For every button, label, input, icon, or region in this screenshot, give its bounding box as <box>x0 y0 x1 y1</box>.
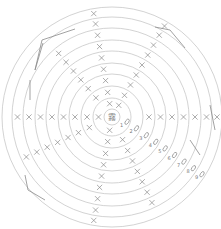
x-mark-icon <box>34 149 39 154</box>
x-mark-icon <box>107 128 112 133</box>
radial-diagram: 123456789 霧 <box>0 0 221 229</box>
bracket-line <box>210 105 215 130</box>
x-mark-icon <box>99 173 104 178</box>
numbered-labels: 123456789 <box>120 118 205 180</box>
x-mark-icon <box>38 114 43 119</box>
x-mark-icon <box>24 154 29 159</box>
x-mark-icon <box>169 114 174 119</box>
x-mark-icon <box>99 55 104 60</box>
x-mark-icon <box>134 72 139 77</box>
x-mark-icon <box>93 21 98 26</box>
x-mark-icon <box>128 82 133 87</box>
x-mark-icon <box>125 148 130 153</box>
x-mark-icon <box>76 130 81 135</box>
ring-number-label: 1 <box>120 122 123 128</box>
x-mark-icon <box>144 190 149 195</box>
x-mark-icon <box>181 114 186 119</box>
x-mark-icon <box>86 86 91 91</box>
x-mark-icon <box>26 114 31 119</box>
ring-number-label: 7 <box>177 162 180 168</box>
x-mark-icon <box>15 114 20 119</box>
center-glyph: 霧 <box>108 113 116 122</box>
x-mark-icon <box>72 114 77 119</box>
x-mark-icon <box>214 114 219 119</box>
ring-number-label: 9 <box>195 174 198 180</box>
oval-marker-icon <box>190 165 196 172</box>
x-mark-icon <box>71 68 76 73</box>
x-mark-icon <box>162 23 167 28</box>
x-mark-icon <box>93 95 98 100</box>
x-mark-icon <box>101 67 106 72</box>
oval-marker-icon <box>181 158 187 165</box>
x-mark-icon <box>157 33 162 38</box>
ring-number-label: 4 <box>149 142 152 148</box>
x-mark-icon <box>61 114 66 119</box>
x-mark-icon <box>103 78 108 83</box>
x-mark-icon <box>93 207 98 212</box>
x-mark-icon <box>158 114 163 119</box>
oval-marker-icon <box>124 118 130 125</box>
x-mark-icon <box>97 185 102 190</box>
x-mark-icon <box>101 162 106 167</box>
x-mark-icon <box>145 52 150 57</box>
x-mark-icon <box>95 33 100 38</box>
x-mark-icon <box>91 218 96 223</box>
x-mark-icon <box>120 137 125 142</box>
x-mark-icon <box>192 114 197 119</box>
x-mark-icon <box>45 145 50 150</box>
x-mark-icon <box>55 140 60 145</box>
oval-marker-icon <box>143 132 149 139</box>
oval-marker-icon <box>162 145 168 152</box>
x-mark-icon <box>149 200 154 205</box>
x-mark-icon <box>63 60 68 65</box>
x-mark-icon <box>84 114 89 119</box>
oval-marker-icon <box>172 152 178 159</box>
x-mark-icon <box>97 44 102 49</box>
ring-number-label: 3 <box>139 135 142 141</box>
x-mark-icon <box>151 43 156 48</box>
x-mark-icon <box>122 93 127 98</box>
x-mark-icon <box>65 135 70 140</box>
bracket-line <box>155 27 185 48</box>
x-mark-icon <box>91 11 96 16</box>
x-mark-icon <box>96 114 101 119</box>
x-mark-icon <box>204 114 209 119</box>
x-mark-icon <box>78 77 83 82</box>
x-mark-icon <box>139 62 144 67</box>
ring-number-label: 8 <box>186 168 189 174</box>
x-mark-icon <box>135 169 140 174</box>
oval-marker-icon <box>133 125 139 132</box>
x-mark-icon <box>130 158 135 163</box>
ring-number-label: 6 <box>168 155 171 161</box>
x-mark-icon <box>146 114 151 119</box>
bracket-line <box>190 140 200 155</box>
x-mark-icon <box>103 151 108 156</box>
ring-number-label: 5 <box>158 148 161 154</box>
x-mark-icon <box>116 103 121 108</box>
ring-number-label: 2 <box>129 128 132 134</box>
oval-marker-icon <box>153 138 159 145</box>
x-mark-icon <box>49 114 54 119</box>
x-mark-icon <box>87 125 92 130</box>
x-mark-icon <box>95 196 100 201</box>
x-mark-icon <box>56 51 61 56</box>
x-mark-icon <box>105 90 110 95</box>
x-mark-icon <box>105 139 110 144</box>
x-mark-icon <box>140 179 145 184</box>
x-mark-icon <box>107 101 112 106</box>
